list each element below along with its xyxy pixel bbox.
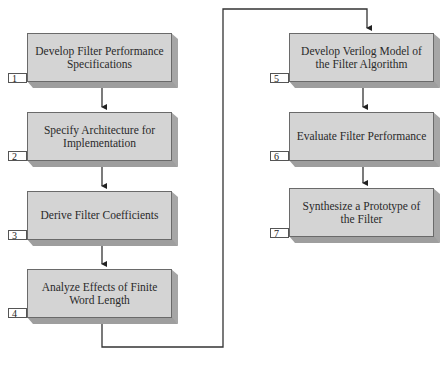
step-1-number: 1 <box>8 73 27 83</box>
step-5-box: Develop Verilog Model of the Filter Algo… <box>289 33 434 82</box>
box-side <box>433 33 440 88</box>
box-side <box>433 112 440 167</box>
box-side <box>171 33 178 88</box>
flowchart: Develop Filter Performance Specification… <box>0 0 443 366</box>
box-side <box>171 191 178 246</box>
step-7-box: Synthesize a Prototype of the Filter <box>289 188 434 237</box>
box-bottom <box>27 160 178 167</box>
step-7-number: 7 <box>270 228 289 238</box>
step-1-box: Develop Filter Performance Specification… <box>27 33 172 82</box>
step-3-number: 3 <box>8 230 27 240</box>
step-3-box: Derive Filter Coefficients <box>27 191 172 240</box>
step-4-box: Analyze Effects of Finite Word Length <box>27 269 172 318</box>
step-2-label: Specify Architecture for Implementation <box>27 112 172 161</box>
step-2-box: Specify Architecture for Implementation <box>27 112 172 161</box>
step-5-label: Develop Verilog Model of the Filter Algo… <box>289 33 434 82</box>
step-1-label: Develop Filter Performance Specification… <box>27 33 172 82</box>
step-7-label: Synthesize a Prototype of the Filter <box>289 188 434 237</box>
step-6-box: Evaluate Filter Performance <box>289 112 434 161</box>
box-bottom <box>27 81 178 88</box>
box-bottom <box>27 317 178 324</box>
box-side <box>171 269 178 324</box>
box-bottom <box>289 81 440 88</box>
step-4-number: 4 <box>8 308 27 318</box>
step-6-number: 6 <box>270 151 289 161</box>
box-bottom <box>289 160 440 167</box>
box-side <box>171 112 178 167</box>
box-bottom <box>27 239 178 246</box>
step-3-label: Derive Filter Coefficients <box>27 191 172 240</box>
box-bottom <box>289 236 440 243</box>
box-side <box>433 188 440 243</box>
step-6-label: Evaluate Filter Performance <box>289 112 434 161</box>
step-2-number: 2 <box>8 151 27 161</box>
step-5-number: 5 <box>270 73 289 83</box>
step-4-label: Analyze Effects of Finite Word Length <box>27 269 172 318</box>
